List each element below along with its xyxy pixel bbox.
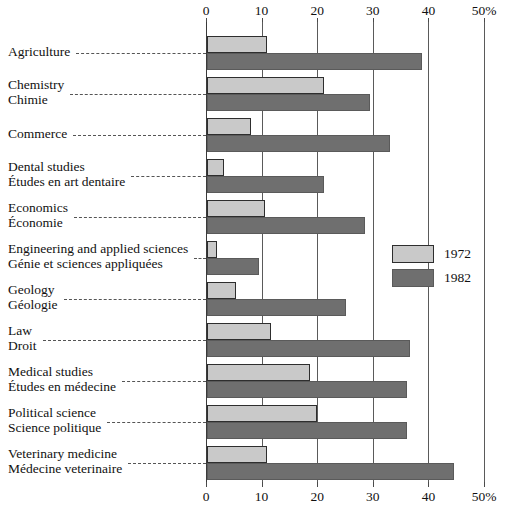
- category-label-en: Medical studies: [8, 364, 93, 379]
- leader-line: [107, 422, 206, 423]
- category-label-agriculture: Agriculture: [8, 44, 70, 59]
- legend-label-1972: 1972: [444, 245, 471, 263]
- category-label-fr: Génie et sciences appliquées: [8, 256, 188, 271]
- legend-item-1982: 1982: [392, 267, 482, 291]
- legend-swatch-1972: [392, 245, 434, 263]
- bar-1972-dental-studies: [207, 159, 224, 176]
- category-label-economics: EconomicsÉconomie: [8, 200, 68, 230]
- bar-1972-veterinary-medicine: [207, 446, 267, 463]
- bar-1982-veterinary-medicine: [207, 463, 454, 480]
- bar-1972-medical-studies: [207, 364, 310, 381]
- leader-line: [194, 258, 206, 259]
- category-label-en: Political science: [8, 405, 96, 420]
- category-label-en: Economics: [8, 200, 68, 215]
- category-label-fr: Économie: [8, 215, 68, 230]
- bar-1972-commerce: [207, 118, 251, 135]
- category-label-fr: Droit: [8, 338, 37, 353]
- bar-1972-economics: [207, 200, 265, 217]
- category-label-commerce: Commerce: [8, 126, 67, 141]
- leader-line: [73, 135, 206, 136]
- category-label-geology: GeologyGéologie: [8, 282, 58, 312]
- bar-1982-law: [207, 340, 410, 357]
- category-label-en: Veterinary medicine: [8, 446, 117, 461]
- x-tick-label-0: 0: [203, 490, 210, 504]
- legend: 1972 1982: [392, 243, 482, 291]
- bar-1972-law: [207, 323, 271, 340]
- category-label-en: Dental studies: [8, 159, 85, 174]
- leader-line: [70, 94, 206, 95]
- category-label-fr: Science politique: [8, 420, 101, 435]
- bar-1982-chemistry: [207, 94, 370, 111]
- bar-1972-political-science: [207, 405, 317, 422]
- bar-1982-medical-studies: [207, 381, 407, 398]
- bar-1982-engineering-and-applied-sciences: [207, 258, 259, 275]
- x-tick-label-20: 20: [310, 4, 324, 18]
- category-label-fr: Médecine veterinaire: [8, 461, 122, 476]
- legend-label-1982: 1982: [444, 269, 471, 287]
- bar-1972-geology: [207, 282, 236, 299]
- category-label-en: Geology: [8, 282, 55, 297]
- gridline-50: [484, 22, 485, 482]
- category-label-law: LawDroit: [8, 323, 37, 353]
- category-label-medical-studies: Medical studiesÉtudes en médecine: [8, 364, 116, 394]
- bar-1972-agriculture: [207, 36, 267, 53]
- bar-1982-agriculture: [207, 53, 422, 70]
- x-tick-label-0: 0: [203, 4, 210, 18]
- x-tick-label-50: 50%: [472, 4, 497, 18]
- x-tick-label-10: 10: [255, 4, 269, 18]
- category-label-veterinary-medicine: Veterinary medicineMédecine veterinaire: [8, 446, 122, 476]
- category-label-dental-studies: Dental studiesÉtudes en art dentaire: [8, 159, 125, 189]
- leader-line: [43, 340, 207, 341]
- leader-line: [128, 463, 206, 464]
- legend-swatch-1982: [392, 269, 434, 287]
- category-label-engineering-and-applied-sciences: Engineering and applied sciencesGénie et…: [8, 241, 188, 271]
- category-label-fr: Études en art dentaire: [8, 174, 125, 189]
- x-tick-label-30: 30: [366, 490, 380, 504]
- category-label-fr: Études en médecine: [8, 379, 116, 394]
- x-tick-label-30: 30: [366, 4, 380, 18]
- leader-line: [122, 381, 206, 382]
- bar-1982-economics: [207, 217, 365, 234]
- legend-item-1972: 1972: [392, 243, 482, 267]
- category-label-en: Engineering and applied sciences: [8, 241, 188, 256]
- category-label-political-science: Political scienceScience politique: [8, 405, 101, 435]
- category-label-en: Chemistry: [8, 77, 64, 92]
- chart-container: 01020304050% 01020304050% AgricultureChe…: [0, 0, 507, 519]
- bar-1972-engineering-and-applied-sciences: [207, 241, 217, 258]
- category-label-fr: Géologie: [8, 297, 58, 312]
- category-label-en: Agriculture: [8, 44, 70, 59]
- gridline-30: [373, 22, 374, 482]
- bar-1972-chemistry: [207, 77, 324, 94]
- bar-1982-dental-studies: [207, 176, 324, 193]
- leader-line: [76, 53, 206, 54]
- category-label-en: Commerce: [8, 126, 67, 141]
- leader-line: [131, 176, 206, 177]
- x-tick-label-40: 40: [422, 490, 436, 504]
- x-tick-label-50: 50%: [472, 490, 497, 504]
- x-tick-label-10: 10: [255, 490, 269, 504]
- category-label-chemistry: ChemistryChimie: [8, 77, 64, 107]
- bar-1982-commerce: [207, 135, 390, 152]
- leader-line: [74, 217, 206, 218]
- x-tick-label-40: 40: [422, 4, 436, 18]
- category-label-en: Law: [8, 323, 32, 338]
- bar-1982-geology: [207, 299, 346, 316]
- category-label-fr: Chimie: [8, 92, 64, 107]
- leader-line: [64, 299, 207, 300]
- x-tick-label-20: 20: [310, 490, 324, 504]
- bar-1982-political-science: [207, 422, 407, 439]
